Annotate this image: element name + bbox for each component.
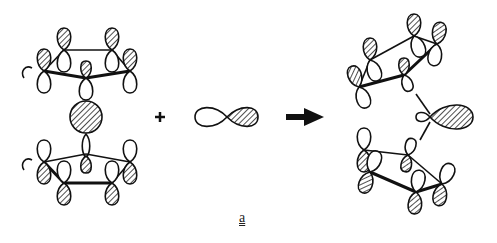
p-orbital [195, 108, 258, 127]
rotation-arrow-icon [23, 67, 32, 78]
reaction-arrow-icon [286, 108, 324, 126]
left-reactant-sandwich [23, 28, 137, 205]
plus-sign [155, 112, 165, 122]
compound-label-text: a [239, 210, 245, 225]
orbital-diagram [0, 0, 497, 243]
compound-label: a [239, 210, 245, 226]
product-bent-sandwich [345, 14, 473, 215]
rotation-arrow-icon [23, 159, 32, 170]
metal-orbital [70, 101, 102, 158]
bottom-ring [23, 140, 137, 205]
top-ring [23, 28, 137, 100]
